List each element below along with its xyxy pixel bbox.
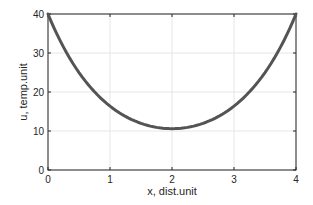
x-tick-label: 4 [293,174,299,185]
y-tick-label: 10 [33,126,45,137]
x-tick-label: 0 [45,174,51,185]
y-tick-label: 30 [33,48,45,59]
y-tick-label: 40 [33,9,45,20]
y-axis-label: u, temp.unit [17,63,29,120]
x-tick-label: 3 [231,174,237,185]
line-chart: 01234010203040 x, dist.unit u, temp.unit [0,0,313,205]
x-axis-label: x, dist.unit [147,185,197,197]
y-tick-label: 20 [33,87,45,98]
x-tick-label: 2 [169,174,175,185]
y-tick-label: 0 [38,165,44,176]
axis-ticks: 01234010203040 [33,9,299,186]
grid-lines [48,14,296,170]
x-tick-label: 1 [107,174,113,185]
